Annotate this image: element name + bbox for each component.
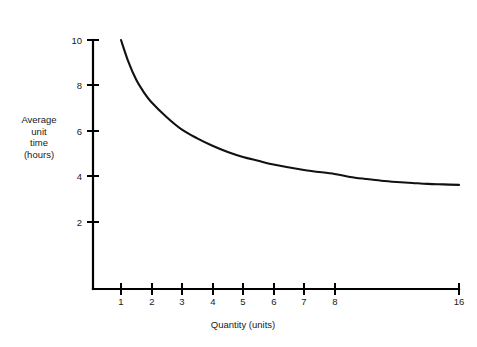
y-tick-label: 4	[77, 171, 82, 182]
learning-curve-line	[121, 40, 459, 185]
y-axis-label: Average unit time (hours)	[6, 114, 72, 160]
learning-curve-chart: 10 8 6 4 2 1 2 3 4 5 6 7 8	[0, 0, 477, 347]
y-tick-label: 8	[77, 80, 82, 91]
x-tick-label: 1	[118, 296, 123, 307]
x-tick-label: 5	[240, 296, 245, 307]
x-tick-label: 4	[210, 296, 215, 307]
y-axis-label-line: time	[6, 137, 72, 149]
y-tick-label: 10	[71, 35, 82, 46]
x-tick-label: 3	[179, 296, 184, 307]
y-axis-label-line: Average	[6, 114, 72, 126]
x-tick-label: 16	[454, 296, 465, 307]
y-axis-label-line: (hours)	[6, 149, 72, 161]
y-tick-label: 2	[77, 217, 82, 228]
y-axis-tick-labels: 10 8 6 4 2	[71, 35, 82, 228]
x-tick-label: 8	[332, 296, 337, 307]
y-axis-label-line: unit	[6, 126, 72, 138]
x-axis-tick-labels: 1 2 3 4 5 6 7 8 16	[118, 296, 464, 307]
x-tick-label: 2	[149, 296, 154, 307]
y-tick-label: 6	[77, 126, 82, 137]
x-axis-label: Quantity (units)	[168, 319, 318, 330]
chart-plot-area: 10 8 6 4 2 1 2 3 4 5 6 7 8	[0, 0, 477, 347]
x-tick-label: 6	[271, 296, 276, 307]
x-tick-label: 7	[301, 296, 306, 307]
